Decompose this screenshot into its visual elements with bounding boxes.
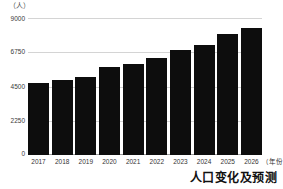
- y-tick-label: 9000: [1, 15, 25, 22]
- plot-area: [28, 18, 262, 155]
- y-axis-tick-labels: 9000 6750 4500 2250 0: [0, 18, 25, 155]
- population-bar-chart: （人） 9000 6750 4500 2250 0 2017 2018 2019: [0, 0, 283, 189]
- bar-2026: [241, 28, 262, 155]
- bar-slot: [28, 18, 49, 155]
- bar-slot: [146, 18, 167, 155]
- x-tick-label: 2019: [75, 157, 96, 169]
- x-tick-label: 2020: [99, 157, 120, 169]
- bar-2025: [217, 34, 238, 155]
- bar-slot: [217, 18, 238, 155]
- y-tick-label: 0: [1, 150, 25, 157]
- x-tick-label: 2018: [52, 157, 73, 169]
- bar-slot: [170, 18, 191, 155]
- bar-slot: [75, 18, 96, 155]
- y-axis-unit-label: （人）: [9, 0, 30, 10]
- x-tick-label: 2017: [28, 157, 49, 169]
- bar-series: [28, 18, 262, 155]
- x-axis-unit-label: （年份）: [262, 157, 283, 166]
- bar-slot: [52, 18, 73, 155]
- bar-slot: [99, 18, 120, 155]
- x-tick-label: 2022: [146, 157, 167, 169]
- chart-title: 人口变化及预测: [190, 168, 278, 185]
- bar-2018: [52, 80, 73, 155]
- bar-slot: [194, 18, 215, 155]
- x-tick-label: 2023: [170, 157, 191, 169]
- y-tick-label: 2250: [1, 117, 25, 124]
- y-tick-label: 4500: [1, 83, 25, 90]
- bar-2020: [99, 67, 120, 155]
- bar-2024: [194, 45, 215, 155]
- bar-2019: [75, 77, 96, 155]
- y-tick-label: 6750: [1, 48, 25, 55]
- bar-slot: [241, 18, 262, 155]
- bar-2023: [170, 50, 191, 155]
- bar-2017: [28, 83, 49, 155]
- x-tick-label: 2021: [123, 157, 144, 169]
- bar-2021: [123, 64, 144, 155]
- bar-slot: [123, 18, 144, 155]
- bar-2022: [146, 58, 167, 155]
